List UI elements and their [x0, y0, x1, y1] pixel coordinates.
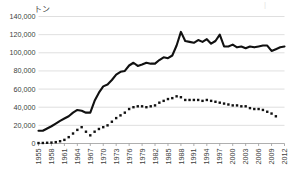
y-axis-tick-label: 120,000: [10, 30, 36, 39]
x-axis-tick-label: 2012: [280, 149, 288, 165]
series-marker-dotted: [262, 109, 264, 111]
x-axis-tick-label: 1967: [86, 149, 95, 165]
series-marker-dotted: [72, 132, 74, 134]
y-axis-tick-labels: 020,00040,00060,00080,000100,000120,0001…: [10, 12, 36, 148]
series-marker-dotted: [80, 126, 82, 128]
x-axis-tick-label: 1988: [177, 149, 186, 165]
series-marker-dotted: [253, 108, 255, 110]
series-marker-dotted: [223, 102, 225, 104]
data-series-group: [37, 32, 284, 144]
series-marker-dotted: [55, 141, 57, 143]
series-marker-dotted: [201, 100, 203, 102]
series-marker-dotted: [158, 101, 160, 103]
x-axis-tick-label: 1964: [73, 149, 82, 165]
series-marker-dotted: [214, 101, 216, 103]
series-marker-dotted: [275, 115, 277, 117]
series-marker-dotted: [141, 105, 143, 107]
x-axis-tick-label: 1997: [215, 149, 224, 165]
series-marker-dotted: [240, 105, 242, 107]
series-marker-dotted: [145, 106, 147, 108]
x-axis-tick-label: 1973: [112, 149, 121, 165]
series-marker-dotted: [115, 117, 117, 119]
series-marker-dotted: [232, 104, 234, 106]
x-axis-tick-label: 1985: [164, 149, 173, 165]
y-axis-tick-label: 80,000: [14, 66, 36, 75]
series-marker-dotted: [257, 108, 259, 110]
series-marker-dotted: [111, 121, 113, 123]
y-axis-tick-label: 40,000: [14, 103, 36, 112]
series-marker-dotted: [270, 112, 272, 114]
series-marker-dotted: [37, 142, 39, 144]
series-marker-dotted: [98, 128, 100, 130]
x-axis-tick-label: 1994: [202, 149, 211, 165]
series-marker-dotted: [42, 142, 44, 144]
series-marker-dotted: [266, 111, 268, 113]
y-axis-tick-label: 60,000: [14, 85, 36, 94]
corner-artifact-mark: |: [264, 0, 266, 9]
x-axis-tick-label: 1982: [151, 149, 160, 165]
series-marker-dotted: [188, 99, 190, 101]
series-marker-dotted: [219, 101, 221, 103]
x-axis-tick-label: 1976: [125, 149, 134, 165]
series-marker-dotted: [50, 141, 52, 143]
series-marker-dotted: [193, 99, 195, 101]
series-marker-dotted: [68, 136, 70, 138]
series-line-solid: [39, 32, 285, 131]
chart-plot-area: 020,00040,00060,00080,000100,000120,0001…: [0, 0, 288, 177]
y-axis-tick-label: 0: [32, 139, 36, 148]
series-marker-dotted: [63, 139, 65, 141]
series-marker-dotted: [132, 106, 134, 108]
series-marker-dotted: [244, 105, 246, 107]
y-axis-tick-label: 100,000: [10, 48, 36, 57]
series-marker-dotted: [93, 131, 95, 133]
series-marker-dotted: [85, 131, 87, 133]
x-axis-tick-label: 2003: [241, 149, 250, 165]
x-axis-tick-label: 2006: [254, 149, 263, 165]
y-axis-unit-label: トン: [34, 3, 50, 14]
x-axis-tick-label: 1955: [34, 149, 43, 165]
gridlines-group: [39, 17, 285, 147]
series-marker-dotted: [128, 108, 130, 110]
x-axis-tick-label: 1961: [60, 149, 69, 165]
series-marker-dotted: [59, 140, 61, 142]
y-axis-tick-label: 20,000: [14, 121, 36, 130]
series-marker-dotted: [227, 103, 229, 105]
series-marker-dotted: [206, 99, 208, 101]
series-marker-dotted: [124, 111, 126, 113]
x-axis-tick-label: 1970: [99, 149, 108, 165]
series-marker-dotted: [76, 129, 78, 131]
series-marker-dotted: [210, 100, 212, 102]
series-marker-dotted: [119, 114, 121, 116]
series-marker-dotted: [184, 99, 186, 101]
x-axis-tick-label: 1991: [189, 149, 198, 165]
series-marker-dotted: [162, 100, 164, 102]
series-marker-dotted: [154, 104, 156, 106]
series-marker-dotted: [249, 107, 251, 109]
series-marker-dotted: [236, 104, 238, 106]
x-axis-tick-labels: 1955195819611964196719701973197619791982…: [34, 149, 288, 165]
series-marker-dotted: [89, 134, 91, 136]
series-marker-dotted: [137, 105, 139, 107]
x-axis-tick-label: 1979: [138, 149, 147, 165]
series-marker-dotted: [197, 99, 199, 101]
series-marker-dotted: [46, 142, 48, 144]
series-marker-dotted: [180, 96, 182, 98]
series-marker-dotted: [167, 98, 169, 100]
x-axis-tick-label: 1958: [47, 149, 56, 165]
chart-container: | トン 020,00040,00060,00080,000100,000120…: [0, 0, 288, 177]
series-marker-dotted: [150, 105, 152, 107]
x-axis-tick-label: 2009: [267, 149, 276, 165]
series-marker-dotted: [102, 126, 104, 128]
series-marker-dotted: [106, 124, 108, 126]
x-axis-tick-label: 2000: [228, 149, 237, 165]
series-marker-dotted: [171, 97, 173, 99]
series-marker-dotted: [175, 95, 177, 97]
y-axis-tick-label: 140,000: [10, 12, 36, 21]
